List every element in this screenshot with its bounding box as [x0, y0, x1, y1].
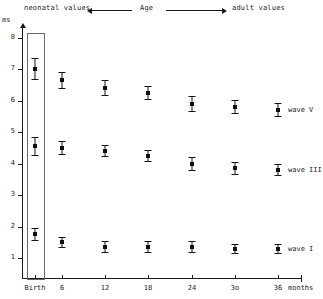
error-bar-cap-lower [145, 252, 152, 253]
error-bar-cap-upper [232, 244, 239, 245]
error-bar-cap-lower [189, 111, 196, 112]
x-axis-unit-label: months [288, 284, 313, 292]
data-point [231, 244, 239, 254]
error-bar-cap-upper [145, 241, 152, 242]
error-bar-cap-upper [59, 72, 66, 73]
series-label: wave III [288, 166, 322, 174]
data-point [188, 96, 196, 112]
y-axis-line [22, 28, 23, 278]
data-point [58, 237, 66, 248]
error-bar-cap-upper [275, 103, 282, 104]
error-bar-cap-upper [102, 80, 109, 81]
error-bar-cap-upper [32, 228, 39, 229]
data-point [144, 150, 152, 163]
error-bar-cap-lower [189, 252, 196, 253]
data-point [274, 103, 282, 117]
data-point [274, 164, 282, 177]
x-axis-tick-label: 18 [144, 284, 152, 292]
y-axis-tick-label: 4 [3, 160, 15, 167]
data-point [231, 100, 239, 114]
error-bar-cap-lower [275, 116, 282, 117]
error-bar-cap-upper [189, 157, 196, 158]
error-bar-cap-lower [232, 174, 239, 175]
x-axis-tick-label: Birth [24, 284, 45, 292]
error-bar-cap-upper [275, 164, 282, 165]
y-axis-tick-label: 5 [3, 128, 15, 135]
data-point-marker [33, 67, 37, 71]
data-point-marker [190, 162, 194, 166]
y-axis-tick-label: 1 [3, 254, 15, 261]
error-bar-cap-lower [59, 154, 66, 155]
data-point [101, 145, 109, 158]
series-label: wave V [288, 106, 313, 114]
error-bar-cap-upper [102, 145, 109, 146]
data-point-marker [146, 154, 150, 158]
data-point [188, 241, 196, 252]
error-bar-cap-upper [145, 150, 152, 151]
error-bar-cap-lower [232, 113, 239, 114]
data-point-marker [33, 232, 37, 236]
data-point [231, 162, 239, 175]
error-bar-cap-lower [32, 79, 39, 80]
data-point-marker [146, 245, 150, 249]
y-axis-tick-label: 7 [3, 65, 15, 72]
error-bar-cap-lower [59, 247, 66, 248]
y-axis-tick-label: 2 [3, 223, 15, 230]
error-bar-cap-lower [102, 95, 109, 96]
y-axis-tick [18, 258, 23, 259]
error-bar-cap-upper [232, 162, 239, 163]
data-point [31, 58, 39, 80]
x-axis-tick-label: 6 [60, 284, 64, 292]
error-bar-cap-upper [102, 241, 109, 242]
error-bar-cap-upper [232, 100, 239, 101]
error-bar-cap-lower [232, 253, 239, 254]
y-axis-tick [18, 227, 23, 228]
error-bar-cap-upper [59, 237, 66, 238]
data-point-marker [103, 86, 107, 90]
x-axis-tick [192, 275, 193, 279]
data-point-marker [146, 91, 150, 95]
y-axis-tick [18, 195, 23, 196]
y-axis-tick [18, 132, 23, 133]
bera-latency-chart: neonatal values Age adult values ms 8765… [0, 0, 323, 299]
error-bar-cap-lower [145, 99, 152, 100]
error-bar-cap-lower [59, 88, 66, 89]
y-axis-tick [18, 38, 23, 39]
data-point-marker [276, 108, 280, 112]
data-point-marker [33, 144, 37, 148]
x-axis-tick-label: 3o [231, 284, 239, 292]
data-point [31, 228, 39, 242]
series-label: wave I [288, 245, 313, 253]
data-point-marker [103, 245, 107, 249]
error-bar-cap-upper [189, 241, 196, 242]
error-bar-cap-lower [32, 240, 39, 241]
data-point [58, 141, 66, 155]
x-axis-tick [148, 275, 149, 279]
error-bar-cap-lower [102, 252, 109, 253]
data-point [101, 241, 109, 252]
data-point [58, 72, 66, 90]
error-bar-cap-lower [145, 161, 152, 162]
error-bar-cap-upper [189, 96, 196, 97]
error-bar-cap-lower [275, 175, 282, 176]
x-axis-line [22, 278, 301, 279]
data-point-marker [233, 247, 237, 251]
y-axis-tick-label: 6 [3, 97, 15, 104]
x-axis-tick-label: 24 [188, 284, 196, 292]
data-point [144, 86, 152, 100]
plot-area: 87654321 Birth61218243o36 wave Vwave III… [0, 0, 323, 299]
error-bar-cap-upper [145, 86, 152, 87]
y-axis-tick [18, 101, 23, 102]
data-point-marker [276, 247, 280, 251]
data-point [188, 157, 196, 171]
y-axis-tick-label: 8 [3, 34, 15, 41]
x-axis-tick [235, 275, 236, 279]
data-point-marker [233, 105, 237, 109]
data-point [31, 137, 39, 156]
x-axis-tick-label: 36 [274, 284, 282, 292]
data-point-marker [103, 149, 107, 153]
data-point-marker [190, 102, 194, 106]
data-point-marker [60, 240, 64, 244]
y-axis-tick-label: 3 [3, 191, 15, 198]
y-axis-tick [18, 69, 23, 70]
